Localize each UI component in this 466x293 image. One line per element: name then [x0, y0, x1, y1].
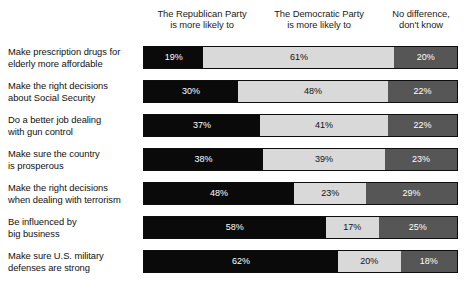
bar-segment: 20%: [394, 47, 457, 68]
segment-value-label: 30%: [182, 87, 200, 96]
category-label: Do a better job dealing with gun control: [8, 114, 138, 137]
chart-row: Make the right decisions when dealing wi…: [0, 180, 466, 214]
category-label: Make prescription drugs for elderly more…: [8, 46, 138, 69]
segment-value-label: 17%: [343, 223, 361, 232]
category-label: Make the right decisions about Social Se…: [8, 80, 138, 103]
stacked-bar: 58%17%25%: [143, 216, 458, 239]
segment-value-label: 19%: [165, 53, 183, 62]
bar-segment: 38%: [144, 149, 263, 170]
segment-value-label: 58%: [226, 223, 244, 232]
legend-label-republican: The Republican Party is more likely to: [143, 8, 261, 31]
chart-row: Make prescription drugs for elderly more…: [0, 44, 466, 78]
stacked-bar: 37%41%22%: [143, 114, 458, 137]
segment-value-label: 38%: [194, 155, 212, 164]
bar-segment: 25%: [379, 217, 457, 238]
segment-value-label: 20%: [360, 257, 378, 266]
stacked-bar: 38%39%23%: [143, 148, 458, 171]
stacked-bar: 62%20%18%: [143, 250, 458, 273]
bar-segment: 17%: [326, 217, 379, 238]
segment-value-label: 39%: [315, 155, 333, 164]
chart-row: Make the right decisions about Social Se…: [0, 78, 466, 112]
bar-segment: 23%: [385, 149, 457, 170]
bar-segment: 29%: [366, 183, 457, 204]
bar-segment: 30%: [144, 81, 238, 102]
bar-segment: 18%: [401, 251, 457, 272]
category-label: Make the right decisions when dealing wi…: [8, 182, 138, 205]
legend-label-democratic: The Democratic Party is more likely to: [255, 8, 383, 31]
category-label: Be influenced by big business: [8, 216, 138, 239]
chart-rows: Make prescription drugs for elderly more…: [0, 44, 466, 282]
segment-value-label: 25%: [409, 223, 427, 232]
chart-row: Do a better job dealing with gun control…: [0, 112, 466, 146]
segment-value-label: 23%: [412, 155, 430, 164]
segment-value-label: 23%: [321, 189, 339, 198]
chart-legend: The Republican Party is more likely to T…: [0, 0, 466, 44]
bar-segment: 48%: [144, 183, 294, 204]
stacked-bar: 19%61%20%: [143, 46, 458, 69]
bar-segment: 22%: [388, 115, 457, 136]
bar-segment: 39%: [263, 149, 385, 170]
chart-row: Be influenced by big business58%17%25%: [0, 214, 466, 248]
segment-value-label: 29%: [403, 189, 421, 198]
segment-value-label: 61%: [290, 53, 308, 62]
segment-value-label: 48%: [304, 87, 322, 96]
category-label: Make sure U.S. military defenses are str…: [8, 250, 138, 273]
segment-value-label: 37%: [193, 121, 211, 130]
bar-segment: 19%: [144, 47, 203, 68]
bar-segment: 22%: [388, 81, 457, 102]
bar-segment: 23%: [294, 183, 366, 204]
bar-segment: 37%: [144, 115, 260, 136]
segment-value-label: 41%: [315, 121, 333, 130]
category-label: Make sure the country is prosperous: [8, 148, 138, 171]
chart-row: Make sure the country is prosperous38%39…: [0, 146, 466, 180]
stacked-bar-chart: The Republican Party is more likely to T…: [0, 0, 466, 293]
bar-segment: 20%: [338, 251, 401, 272]
chart-row: Make sure U.S. military defenses are str…: [0, 248, 466, 282]
segment-value-label: 20%: [417, 53, 435, 62]
legend-label-no-difference: No difference, don't know: [381, 8, 461, 31]
segment-value-label: 22%: [414, 87, 432, 96]
bar-segment: 41%: [260, 115, 388, 136]
bar-segment: 62%: [144, 251, 338, 272]
bar-segment: 48%: [238, 81, 388, 102]
stacked-bar: 30%48%22%: [143, 80, 458, 103]
bar-segment: 58%: [144, 217, 326, 238]
bar-segment: 61%: [203, 47, 394, 68]
segment-value-label: 22%: [414, 121, 432, 130]
segment-value-label: 18%: [420, 257, 438, 266]
segment-value-label: 62%: [232, 257, 250, 266]
segment-value-label: 48%: [210, 189, 228, 198]
stacked-bar: 48%23%29%: [143, 182, 458, 205]
